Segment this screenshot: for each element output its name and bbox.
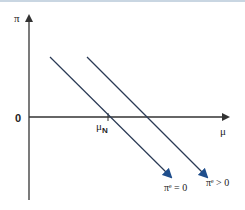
y-axis-label: π — [14, 13, 20, 24]
x-axis-label: μ — [220, 126, 226, 137]
curve-expected-positive-label: πᵉ > 0 — [206, 178, 229, 188]
natural-rate-label: μN — [96, 121, 108, 135]
curve-expected-zero-label: πᵉ = 0 — [164, 183, 187, 193]
natural-rate-subscript: N — [102, 126, 108, 135]
origin-label: 0 — [15, 112, 21, 124]
